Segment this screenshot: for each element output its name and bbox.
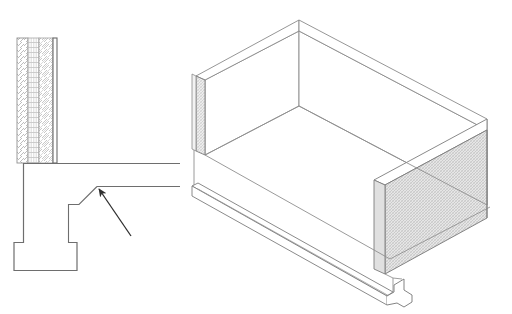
upstand-return-outline [69,187,98,244]
wall-layer-inner-lining [53,38,57,163]
isometric-view [192,20,490,307]
section-detail-view [14,38,180,271]
drawing-svg [0,0,512,314]
wall-layer-inner-leaf [39,38,53,163]
wall-layer-outer-leaf [17,38,28,163]
left-end-cap-outer-edge [192,74,196,151]
wall-layer-cavity-insulation [28,38,39,163]
left-end-cap-face [196,76,205,155]
column-footing-outline [14,243,77,271]
technical-drawing-canvas [0,0,512,314]
layered-wall-assembly [17,38,57,163]
right-end-wall-side-cut [374,180,385,274]
notch-tie-line [385,274,402,279]
annotation-arrow [99,189,131,236]
